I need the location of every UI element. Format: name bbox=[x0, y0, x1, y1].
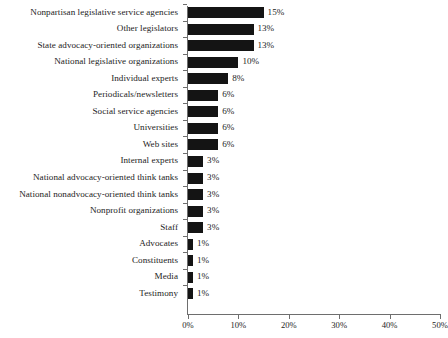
bar bbox=[188, 7, 264, 18]
y-axis-tick bbox=[183, 21, 187, 22]
x-axis-tick bbox=[238, 315, 239, 319]
bar-value-label: 6% bbox=[222, 122, 234, 133]
category-label: National legislative organizations bbox=[0, 56, 178, 67]
y-axis-tick bbox=[183, 170, 187, 171]
bar-value-label: 10% bbox=[242, 56, 259, 67]
x-axis-tick-label: 40% bbox=[382, 320, 398, 330]
y-axis-tick bbox=[183, 186, 187, 187]
category-label: Web sites bbox=[0, 139, 178, 150]
bar bbox=[188, 24, 254, 35]
bar-value-label: 1% bbox=[197, 271, 209, 282]
plot-area: 15%13%13%10%8%6%6%6%6%3%3%3%3%3%1%1%1%1% bbox=[188, 0, 440, 314]
x-axis-tick bbox=[339, 315, 340, 319]
bar-value-label: 8% bbox=[232, 73, 244, 84]
bar bbox=[188, 57, 238, 68]
y-axis-tick bbox=[183, 252, 187, 253]
y-axis-tick bbox=[183, 4, 187, 5]
y-axis-tick bbox=[183, 54, 187, 55]
y-axis-tick bbox=[183, 219, 187, 220]
bar-value-label: 3% bbox=[207, 205, 219, 216]
category-label: Internal experts bbox=[0, 155, 178, 166]
x-axis-tick-label: 10% bbox=[231, 320, 247, 330]
y-axis-tick bbox=[183, 70, 187, 71]
y-axis-tick bbox=[183, 203, 187, 204]
y-axis-tick bbox=[183, 37, 187, 38]
bar-chart: Nonpartisan legislative service agencies… bbox=[0, 0, 448, 338]
category-label: Individual experts bbox=[0, 73, 178, 84]
category-label: Other legislators bbox=[0, 23, 178, 34]
category-label: Social service agencies bbox=[0, 106, 178, 117]
bar bbox=[188, 173, 203, 184]
category-label: Nonpartisan legislative service agencies bbox=[0, 7, 178, 18]
bar bbox=[188, 156, 203, 167]
x-axis-tick-label: 50% bbox=[432, 320, 448, 330]
bar bbox=[188, 123, 218, 134]
bar bbox=[188, 222, 203, 233]
bar-value-label: 6% bbox=[222, 89, 234, 100]
bar bbox=[188, 73, 228, 84]
bar-value-label: 1% bbox=[197, 288, 209, 299]
bar bbox=[188, 40, 254, 51]
x-axis-tick bbox=[188, 315, 189, 319]
category-label: Media bbox=[0, 271, 178, 282]
bar bbox=[188, 189, 203, 200]
category-label: State advocacy-oriented organizations bbox=[0, 40, 178, 51]
y-axis-tick bbox=[183, 136, 187, 137]
y-axis-line bbox=[187, 6, 188, 315]
bar-value-label: 6% bbox=[222, 139, 234, 150]
bar-value-label: 3% bbox=[207, 222, 219, 233]
x-axis-tick bbox=[440, 315, 441, 319]
bar-value-label: 15% bbox=[268, 7, 285, 18]
category-label: Universities bbox=[0, 122, 178, 133]
category-axis-labels: Nonpartisan legislative service agencies… bbox=[0, 0, 182, 314]
x-axis-tick-label: 0% bbox=[182, 320, 193, 330]
bar-value-label: 13% bbox=[258, 40, 275, 51]
category-label: Testimony bbox=[0, 288, 178, 299]
bar-value-label: 3% bbox=[207, 172, 219, 183]
bar bbox=[188, 90, 218, 101]
bar-value-label: 3% bbox=[207, 155, 219, 166]
bar-value-label: 1% bbox=[197, 238, 209, 249]
category-label: Nonprofit organizations bbox=[0, 205, 178, 216]
bar bbox=[188, 272, 193, 283]
category-label: National advocacy-oriented think tanks bbox=[0, 172, 178, 183]
y-axis-tick bbox=[183, 120, 187, 121]
y-axis-tick bbox=[183, 236, 187, 237]
x-axis-tick-label: 20% bbox=[281, 320, 297, 330]
bar bbox=[188, 206, 203, 217]
bar-value-label: 3% bbox=[207, 189, 219, 200]
category-label: Advocates bbox=[0, 238, 178, 249]
bar bbox=[188, 106, 218, 117]
bar bbox=[188, 255, 193, 266]
bar bbox=[188, 239, 193, 250]
x-axis-tick-label: 30% bbox=[331, 320, 347, 330]
bar-value-label: 6% bbox=[222, 106, 234, 117]
x-axis-line bbox=[187, 314, 441, 315]
y-axis-tick bbox=[183, 269, 187, 270]
category-label: Periodicals/newsletters bbox=[0, 89, 178, 100]
y-axis-tick bbox=[183, 103, 187, 104]
bar bbox=[188, 139, 218, 150]
y-axis-tick bbox=[183, 285, 187, 286]
bar-value-label: 1% bbox=[197, 255, 209, 266]
y-axis-tick bbox=[183, 87, 187, 88]
category-label: Constituents bbox=[0, 255, 178, 266]
bar bbox=[188, 288, 193, 299]
bar-value-label: 13% bbox=[258, 23, 275, 34]
category-label: National nonadvocacy-oriented think tank… bbox=[0, 189, 178, 200]
category-label: Staff bbox=[0, 222, 178, 233]
y-axis-tick bbox=[183, 153, 187, 154]
x-axis-tick bbox=[289, 315, 290, 319]
x-axis-tick bbox=[390, 315, 391, 319]
